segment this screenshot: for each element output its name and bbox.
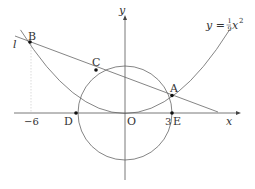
origin-label: O — [127, 115, 136, 128]
tick-label-neg6: −6 — [24, 116, 39, 127]
line-l — [15, 36, 218, 112]
point-e-label: E — [173, 115, 181, 128]
curve-equation: y = 1 9 x 2 — [205, 17, 243, 33]
x-axis-arrow-icon — [236, 111, 241, 115]
point-d — [74, 111, 78, 115]
point-a-label: A — [169, 82, 179, 95]
x-axis-label: x — [226, 115, 233, 128]
equation-exp: 2 — [239, 17, 243, 25]
line-l-label: l — [13, 38, 17, 51]
equation-lhs: y = — [205, 19, 225, 32]
point-d-label: D — [64, 115, 73, 128]
geometry-figure: y x O −6 3 l A B C D E y = 1 9 x 2 — [0, 0, 255, 189]
equation-var: x — [232, 19, 239, 32]
tick-label-3: 3 — [165, 116, 171, 127]
y-axis-label: y — [118, 4, 126, 17]
point-b-label: B — [28, 30, 36, 43]
point-c-label: C — [92, 56, 100, 69]
diagram-canvas: y x O −6 3 l A B C D E y = 1 9 x 2 — [0, 0, 255, 189]
